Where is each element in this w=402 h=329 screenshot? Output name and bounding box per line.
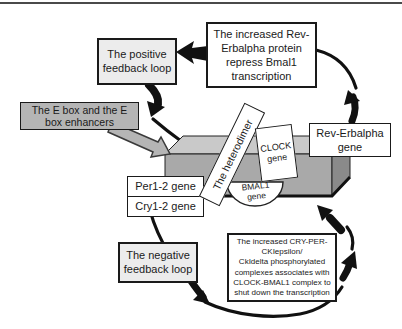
box-line: Cry1-2 gene (135, 200, 196, 214)
arc-top-right (316, 50, 356, 88)
box-line: CLOCK-BMAL1 complex to (233, 278, 330, 288)
box-line: The positive (107, 48, 166, 62)
cry-per-complex-box: The increased CRY-PER- CKIepsilon/ CkIde… (227, 233, 337, 302)
circadian-feedback-loop-diagram: The positive feedback loop The increased… (0, 0, 402, 329)
e-box-enhancers-label: The E box and the E box enhancers (20, 102, 139, 130)
box-line: feedback loop (103, 62, 172, 76)
box-line: The increased CRY-PER- (237, 237, 328, 247)
box-line: gene (267, 152, 288, 165)
per-gene-box: Per1-2 gene (127, 176, 204, 197)
box-line: repress Bmal1 (226, 55, 297, 69)
arrow-rev-to-positive (176, 41, 208, 64)
box-line: complexes associates with (235, 268, 330, 278)
arc-left-to-slab (153, 119, 181, 141)
rev-erbalpha-protein-box: The increased Rev- Erbalpha protein repr… (206, 22, 317, 88)
positive-feedback-loop-box: The positive feedback loop (97, 38, 177, 85)
box-line: The increased Rev- (214, 27, 310, 41)
box-line: Per1-2 gene (135, 180, 196, 194)
negative-feedback-loop-box: The negative feedback loop (118, 242, 198, 283)
diagram-graphics (0, 0, 402, 329)
box-line: CkIdelta phosphorylated (239, 257, 325, 267)
box-line: box enhancers (45, 116, 114, 129)
rev-erbalpha-gene-box: Rev-Erbalpha gene (309, 123, 391, 157)
box-line: Erbalpha protein (221, 41, 302, 55)
clock-gene-box: CLOCK gene (255, 124, 298, 182)
arc-right-rise (347, 227, 353, 249)
box-line: feedback loop (124, 263, 193, 277)
box-line: gene (338, 140, 362, 154)
box-line: The negative (126, 249, 190, 263)
arrow-positive-down-shaft (149, 85, 158, 104)
box-line: CKIepsilon/ (262, 247, 303, 257)
box-line: transcription (232, 69, 292, 83)
box-line: Rev-Erbalpha (316, 126, 383, 140)
box-line: The E box and the E (32, 104, 128, 117)
arrow-into-slab-shaft (330, 218, 341, 230)
cry-gene-box: Cry1-2 gene (127, 196, 204, 217)
box-line: shut down the transcription (234, 288, 330, 298)
